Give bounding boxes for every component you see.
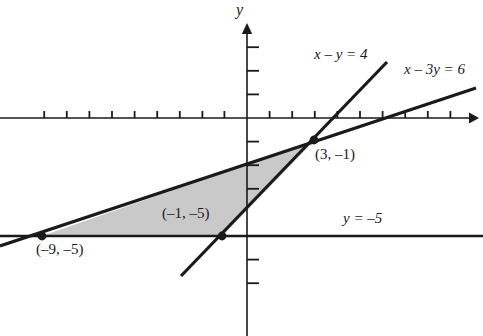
coordinate-plane	[0, 0, 483, 336]
graph-figure: y x – y = 4 x – 3y = 6 y = –5 (3, –1) (–…	[0, 0, 483, 336]
label-line-y-equals-minus5: y = –5	[343, 211, 382, 226]
label-line-x-minus-3y-equals-6: x – 3y = 6	[404, 62, 465, 77]
x-axis	[0, 113, 479, 124]
label-point-3-minus1: (3, –1)	[315, 147, 355, 162]
point-marker-minus9-minus5	[38, 232, 47, 241]
point-marker-3-minus1	[310, 136, 319, 145]
y-axis-label: y	[236, 2, 243, 18]
line-x-minus-y-equals-4	[181, 62, 387, 276]
label-point-minus1-minus5: (–1, –5)	[162, 206, 210, 221]
line-x-minus-3y-equals-6	[0, 88, 476, 246]
label-point-minus9-minus5: (–9, –5)	[36, 242, 84, 257]
point-marker-minus1-minus5	[218, 232, 227, 241]
y-axis-ticks	[247, 47, 259, 283]
label-line-x-minus-y-equals-4: x – y = 4	[314, 47, 367, 62]
